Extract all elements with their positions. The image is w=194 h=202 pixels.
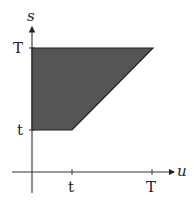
x-tick-label-T: T [146, 178, 156, 196]
y-tick-label-T: T [13, 39, 23, 57]
y-tick-label-t: t [17, 121, 23, 139]
x-tick-label-t: t [68, 178, 74, 196]
shaded-region [32, 48, 153, 130]
x-axis-label: u [177, 162, 187, 180]
region-diagram: s u T t t T [0, 0, 194, 202]
y-axis-label: s [27, 7, 35, 25]
